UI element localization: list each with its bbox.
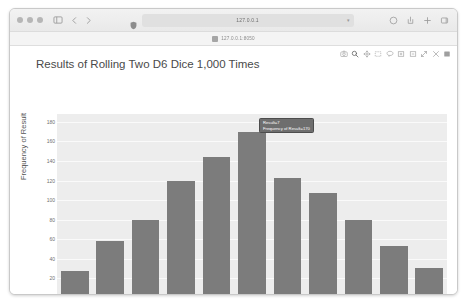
page-content: Results of Rolling Two D6 Dice 1,000 Tim… bbox=[10, 46, 457, 294]
bar-chart[interactable]: Frequency of Result Result 0204060801001… bbox=[10, 46, 457, 294]
y-tick-label: 160 bbox=[37, 138, 57, 144]
bar[interactable] bbox=[415, 268, 443, 295]
bar[interactable] bbox=[238, 132, 266, 295]
tab-overview-icon[interactable] bbox=[439, 15, 450, 26]
share-icon[interactable] bbox=[388, 15, 399, 26]
download-icon[interactable] bbox=[405, 15, 416, 26]
bar[interactable] bbox=[96, 241, 124, 295]
y-tick-label: 100 bbox=[37, 197, 57, 203]
browser-window: 127.0.0.1 ▾ bbox=[9, 8, 458, 295]
maximize-button[interactable] bbox=[37, 17, 43, 23]
url-text: 127.0.0.1 bbox=[236, 17, 259, 23]
toolbar-right-icons bbox=[388, 15, 450, 26]
chevron-down-icon[interactable]: ▾ bbox=[347, 17, 350, 23]
screenshot-root: 127.0.0.1 ▾ bbox=[0, 0, 465, 302]
bar[interactable] bbox=[61, 271, 89, 295]
y-tick-label: 40 bbox=[37, 256, 57, 262]
y-tick-label: 60 bbox=[37, 236, 57, 242]
address-bar[interactable]: 127.0.0.1 ▾ bbox=[142, 14, 354, 27]
sidebar-icon[interactable] bbox=[52, 15, 63, 26]
bookmarks-bar: 127.0.0.1:8050 bbox=[10, 32, 457, 46]
bookmark-icon bbox=[212, 36, 218, 42]
navigation-buttons bbox=[69, 15, 94, 26]
bar[interactable] bbox=[203, 157, 231, 295]
bar[interactable] bbox=[309, 193, 337, 295]
minimize-button[interactable] bbox=[27, 17, 33, 23]
bookmark-label[interactable]: 127.0.0.1:8050 bbox=[221, 36, 254, 41]
bar[interactable] bbox=[167, 181, 195, 295]
y-tick-label: 120 bbox=[37, 178, 57, 184]
close-button[interactable] bbox=[17, 17, 23, 23]
back-icon[interactable] bbox=[69, 15, 80, 26]
bar[interactable] bbox=[345, 220, 373, 295]
y-tick-label: 80 bbox=[37, 217, 57, 223]
browser-toolbar: 127.0.0.1 ▾ bbox=[10, 9, 457, 32]
gridline bbox=[57, 122, 447, 123]
hover-tooltip: Result=7 Frequency of Result=170 bbox=[259, 118, 314, 133]
y-tick-label: 20 bbox=[37, 275, 57, 281]
window-controls bbox=[17, 17, 43, 23]
y-tick-label: 180 bbox=[37, 119, 57, 125]
y-tick-label: 140 bbox=[37, 158, 57, 164]
bar[interactable] bbox=[380, 246, 408, 295]
plot-area[interactable] bbox=[57, 114, 447, 295]
address-bar-container: 127.0.0.1 ▾ bbox=[104, 14, 378, 27]
tooltip-line-2: Frequency of Result=170 bbox=[263, 126, 310, 132]
forward-icon[interactable] bbox=[83, 15, 94, 26]
shield-icon bbox=[129, 16, 138, 25]
bar[interactable] bbox=[274, 178, 302, 295]
bar[interactable] bbox=[132, 220, 160, 295]
y-axis-label: Frequency of Result bbox=[19, 82, 28, 212]
new-tab-icon[interactable] bbox=[422, 15, 433, 26]
